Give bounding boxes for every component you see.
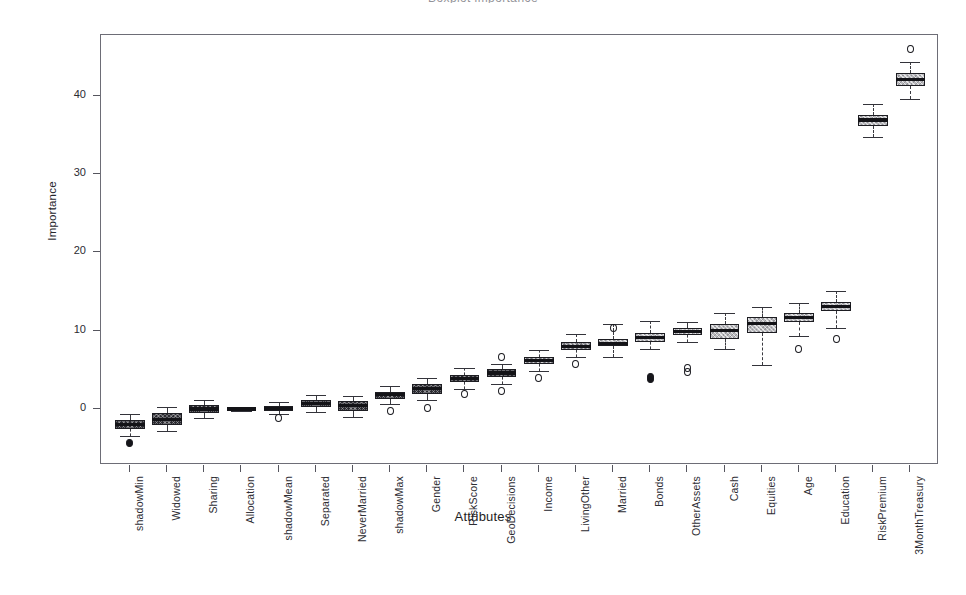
x-tick-mark <box>575 465 576 472</box>
page-title: Boxplot importance <box>0 0 966 3</box>
x-tick-mark <box>278 465 279 472</box>
x-tick-mark <box>203 465 204 472</box>
y-tick-mark <box>93 330 100 331</box>
x-tick-mark <box>240 465 241 472</box>
whisker-cap-lower <box>900 99 920 100</box>
x-tick-label: Gender <box>430 476 442 512</box>
x-tick-label: OtherAssets <box>690 476 702 536</box>
y-tick-label: 40 <box>44 88 86 100</box>
whisker-lower <box>910 86 911 99</box>
whisker-upper <box>910 62 911 73</box>
y-tick-mark <box>93 408 100 409</box>
y-axis-title: Importance <box>46 141 58 281</box>
x-tick-mark <box>463 465 464 472</box>
x-tick-label: Sharing <box>207 476 219 514</box>
x-tick-label: Cash <box>728 476 740 501</box>
x-tick-mark <box>352 465 353 472</box>
y-tick-label: 10 <box>44 323 86 335</box>
x-tick-mark <box>426 465 427 472</box>
plot-area <box>100 34 938 464</box>
median-line <box>896 78 926 81</box>
y-tick-mark <box>93 95 100 96</box>
x-tick-mark <box>389 465 390 472</box>
y-tick-label: 30 <box>44 166 86 178</box>
x-tick-label: Bonds <box>653 476 665 507</box>
x-tick-mark <box>538 465 539 472</box>
x-tick-label: Age <box>802 476 814 495</box>
x-tick-label: shadowMax <box>393 476 405 534</box>
x-tick-mark <box>315 465 316 472</box>
y-tick-mark <box>93 173 100 174</box>
box-plot-item <box>101 35 937 463</box>
y-tick-label: 20 <box>44 244 86 256</box>
x-tick-label: Income <box>542 476 554 512</box>
x-tick-mark <box>686 465 687 472</box>
x-tick-mark <box>129 465 130 472</box>
x-tick-mark <box>761 465 762 472</box>
y-tick-mark <box>93 251 100 252</box>
x-tick-mark <box>724 465 725 472</box>
x-tick-label: Married <box>616 476 628 513</box>
x-tick-mark <box>909 465 910 472</box>
x-tick-mark <box>649 465 650 472</box>
x-tick-mark <box>166 465 167 472</box>
x-tick-mark <box>501 465 502 472</box>
x-tick-mark <box>835 465 836 472</box>
x-tick-mark <box>612 465 613 472</box>
x-tick-mark <box>798 465 799 472</box>
y-tick-label: 0 <box>44 401 86 413</box>
boxplot-figure: Boxplot importance Importance 010203040 … <box>0 0 966 595</box>
x-axis-title: Attributes <box>0 509 966 524</box>
whisker-cap-upper <box>900 62 920 63</box>
outlier-point <box>907 45 914 53</box>
x-tick-mark <box>872 465 873 472</box>
